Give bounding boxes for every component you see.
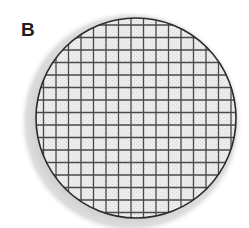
gridded-disc-figure bbox=[0, 0, 249, 228]
